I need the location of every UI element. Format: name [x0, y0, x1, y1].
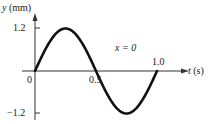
x-tick-label-end: 1.0	[152, 57, 165, 67]
y-tick-label-bottom: −1.2	[7, 108, 25, 118]
x-tick-label-mid: 0.5	[89, 75, 102, 85]
y-axis-label: y (mm)	[2, 3, 31, 13]
y-tick-label-top: 1.2	[13, 23, 26, 33]
sine-wave-chart	[0, 0, 209, 124]
origin-label: 0	[27, 75, 32, 85]
position-annotation: x = 0	[115, 43, 136, 53]
y-axis-arrow-icon	[33, 13, 38, 21]
x-axis-label: t (s)	[188, 66, 204, 76]
